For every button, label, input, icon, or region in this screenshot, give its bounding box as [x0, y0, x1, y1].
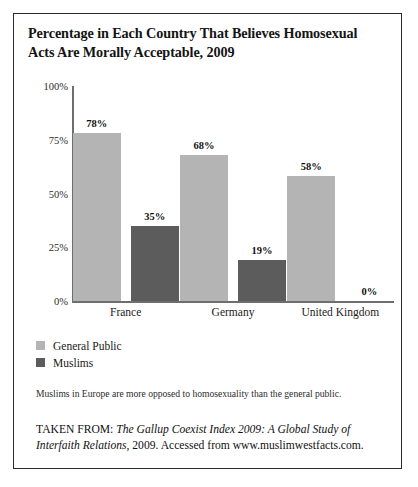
x-category-label: United Kingdom: [287, 306, 394, 318]
bar-value-label: 68%: [180, 140, 228, 151]
legend-label: Muslims: [53, 357, 93, 369]
legend-swatch-icon: [36, 358, 45, 367]
source-prefix: TAKEN FROM:: [36, 423, 113, 436]
y-tick-0: 0%: [26, 296, 68, 307]
chart-legend: General PublicMuslims: [36, 337, 122, 371]
source-rest: , 2009. Accessed from www.muslimwestfact…: [127, 439, 364, 452]
figure-source: TAKEN FROM: The Gallup Coexist Index 200…: [36, 422, 388, 455]
legend-label: General Public: [53, 340, 122, 352]
legend-item-general-public: General Public: [36, 337, 122, 354]
bar-germany-muslims: [238, 260, 286, 301]
y-tick-100: 100%: [26, 81, 68, 92]
figure-frame: Percentage in Each Country That Believes…: [13, 13, 402, 469]
bar-germany-general-public: [180, 155, 228, 301]
figure-caption: Muslims in Europe are more opposed to ho…: [36, 387, 386, 400]
bar-value-label: 78%: [73, 118, 121, 129]
bar-france-general-public: [73, 133, 121, 301]
bar-united-kingdom-general-public: [287, 176, 335, 301]
y-axis-tick-labels: 0%25%50%75%100%: [14, 14, 68, 470]
bar-value-label: 0%: [345, 286, 393, 297]
x-category-label: France: [72, 306, 179, 318]
x-category-label: Germany: [179, 306, 286, 318]
bar-value-label: 19%: [238, 245, 286, 256]
legend-swatch-icon: [36, 341, 45, 350]
bar-value-label: 35%: [131, 211, 179, 222]
legend-item-muslims: Muslims: [36, 354, 122, 371]
bar-value-label: 58%: [287, 161, 335, 172]
bar-series-layer: 78%35%France68%19%Germany58%0%United Kin…: [72, 14, 394, 470]
bar-france-muslims: [131, 226, 179, 301]
y-tick-75: 75%: [26, 134, 68, 145]
y-tick-25: 25%: [26, 242, 68, 253]
y-tick-50: 50%: [26, 188, 68, 199]
chart-plot-area: 0%25%50%75%100% 78%35%France68%19%German…: [14, 14, 403, 470]
